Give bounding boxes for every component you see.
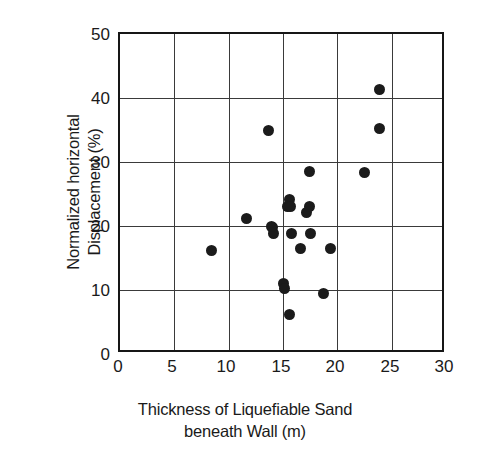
x-tick-label-5: 5 — [152, 358, 192, 375]
gridline-vertical — [337, 34, 338, 350]
x-axis-title: Thickness of Liquefiable Sand beneath Wa… — [40, 398, 450, 443]
y-axis-title-line-2: Displacement (%) — [84, 114, 105, 269]
data-point — [279, 283, 290, 294]
gridline-vertical — [392, 34, 393, 350]
gridline-vertical — [283, 34, 284, 350]
x-tick-label-30: 30 — [424, 358, 464, 375]
gridline-vertical — [229, 34, 230, 350]
gridline-horizontal — [120, 226, 442, 227]
data-point — [284, 309, 295, 320]
gridline-vertical — [174, 34, 175, 350]
x-tick-label-20: 20 — [315, 358, 355, 375]
data-point — [359, 167, 370, 178]
data-point — [304, 166, 315, 177]
x-axis-title-line-1: Thickness of Liquefiable Sand — [40, 398, 450, 420]
y-tick-label-50: 50 — [66, 26, 110, 43]
x-tick-label-25: 25 — [370, 358, 410, 375]
data-point — [295, 243, 306, 254]
scatter-plot-figure: Normalized horizontal Displacement (%) 5… — [0, 0, 482, 468]
y-tick-label-10: 10 — [66, 282, 110, 299]
data-point — [285, 201, 296, 212]
data-point — [263, 125, 274, 136]
data-point — [304, 201, 315, 212]
y-tick-label-30: 30 — [66, 154, 110, 171]
y-axis-title: Normalized horizontal Displacement (%) — [56, 32, 112, 352]
gridline-horizontal — [120, 162, 442, 163]
y-axis-title-line-1: Normalized horizontal — [63, 114, 84, 269]
data-point — [325, 243, 336, 254]
x-axis-title-line-2: beneath Wall (m) — [40, 420, 450, 442]
x-tick-label-15: 15 — [261, 358, 301, 375]
gridline-horizontal — [120, 98, 442, 99]
data-point — [305, 228, 316, 239]
y-tick-label-20: 20 — [66, 218, 110, 235]
data-point — [266, 221, 277, 232]
data-point — [286, 228, 297, 239]
data-point — [206, 245, 217, 256]
x-tick-label-0: 0 — [98, 358, 138, 375]
data-point — [241, 213, 252, 224]
y-tick-label-40: 40 — [66, 90, 110, 107]
data-point — [374, 84, 385, 95]
data-point — [374, 123, 385, 134]
plot-area — [118, 32, 444, 352]
data-point — [318, 288, 329, 299]
x-tick-label-10: 10 — [206, 358, 246, 375]
